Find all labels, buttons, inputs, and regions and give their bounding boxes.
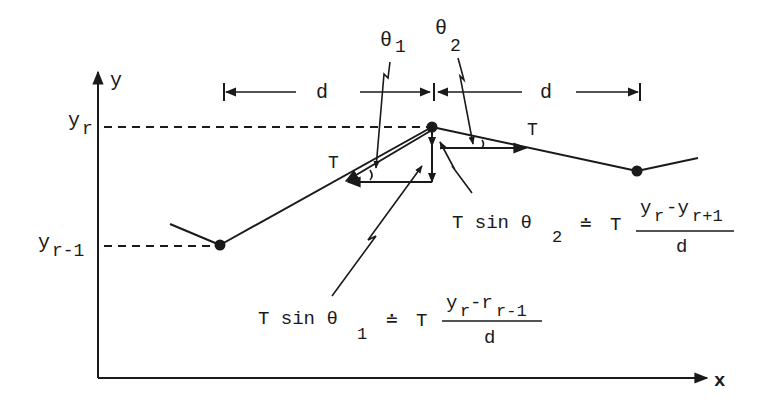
level-label-y-r: y r: [68, 109, 93, 139]
svg-text:-r: -r: [470, 292, 493, 314]
svg-text:r-1: r-1: [52, 241, 84, 261]
svg-text:-y: -y: [666, 197, 689, 219]
svg-text:y: y: [446, 292, 457, 314]
equation-theta2: T sin θ 2 ≐ T y r -y r+1 d: [452, 197, 734, 258]
svg-text:r: r: [82, 119, 93, 139]
svg-text:y: y: [38, 231, 50, 254]
node-point-r-minus-1: [215, 240, 226, 251]
node-point-r-plus-1: [632, 166, 643, 177]
svg-text:θ: θ: [380, 29, 392, 52]
tension-label-right: T: [527, 120, 538, 140]
svg-text:d: d: [484, 327, 495, 349]
svg-text:T sin θ: T sin θ: [258, 308, 338, 330]
angle-label-theta2: θ 2: [435, 17, 461, 56]
svg-text:r: r: [460, 302, 470, 321]
svg-text:r+1: r+1: [692, 207, 723, 226]
svg-text:2: 2: [552, 228, 562, 247]
string-tension-diagram: y x y r y r-1 d d θ 1 θ: [0, 0, 769, 410]
eq2-leader: [440, 142, 472, 193]
svg-text:≐: ≐: [386, 310, 397, 332]
right-force-triangle: T: [432, 120, 538, 148]
tension-label-left: T: [328, 153, 339, 173]
level-label-y-r-minus-1: y r-1: [38, 231, 84, 261]
svg-text:1: 1: [357, 325, 367, 344]
svg-text:y: y: [640, 197, 651, 219]
svg-text:2: 2: [450, 36, 461, 56]
svg-text:θ: θ: [435, 17, 447, 40]
svg-text:≐: ≐: [580, 214, 591, 236]
y-axis-label: y: [110, 69, 122, 92]
dimension-d-left: d: [224, 81, 430, 104]
svg-text:T: T: [416, 310, 427, 332]
svg-text:1: 1: [395, 37, 406, 57]
dimension-label-d-left: d: [316, 81, 328, 104]
svg-text:T sin θ: T sin θ: [452, 212, 532, 234]
axes: y x: [98, 69, 725, 392]
dimension-d-right: d: [438, 81, 640, 104]
eq1-leader: [332, 166, 422, 296]
angle-label-theta1: θ 1: [380, 29, 406, 57]
equation-theta1: T sin θ 1 ≐ T y r -r r-1 d: [258, 292, 542, 349]
theta2-leader: [458, 58, 473, 144]
svg-text:r-1: r-1: [496, 302, 527, 321]
dimension-label-d-right: d: [540, 81, 552, 104]
svg-text:T: T: [610, 214, 621, 236]
svg-text:r: r: [654, 207, 664, 226]
x-axis-label: x: [714, 370, 725, 392]
svg-text:y: y: [68, 109, 80, 132]
svg-text:d: d: [676, 236, 687, 258]
